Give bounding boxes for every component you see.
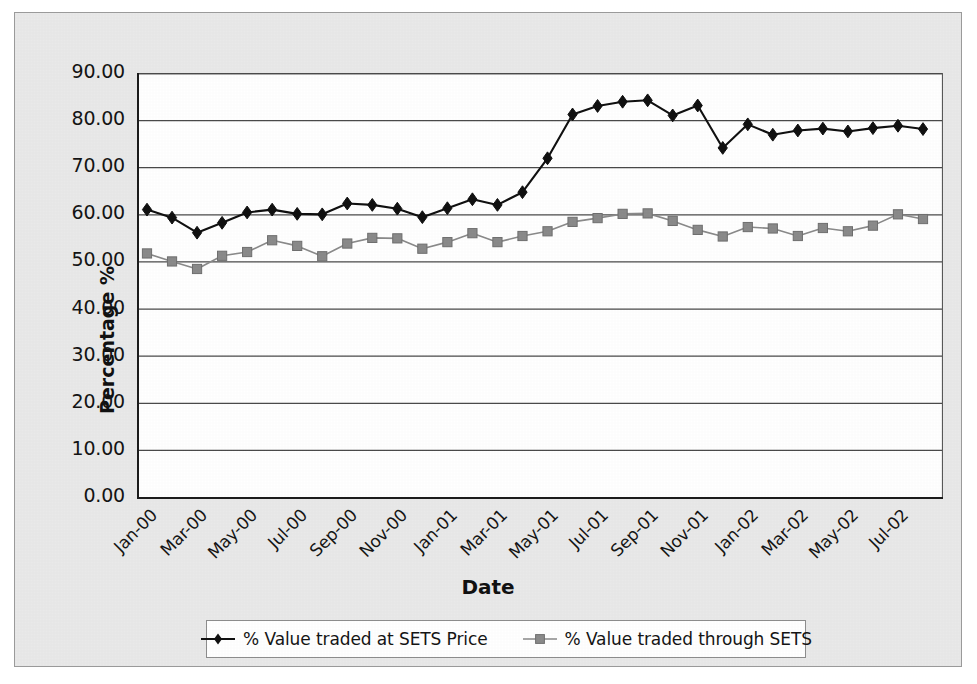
data-point-marker (293, 207, 302, 220)
y-axis-tick-label: 70.00 (17, 154, 125, 176)
data-point-marker (643, 209, 652, 218)
data-point-marker (593, 214, 602, 223)
data-point-marker (192, 226, 201, 239)
chart-legend: % Value traded at SETS Price% Value trad… (206, 620, 806, 658)
data-point-marker (443, 202, 452, 215)
data-point-marker (243, 206, 252, 219)
data-point-marker (343, 239, 352, 248)
data-point-marker (543, 227, 552, 236)
data-point-marker (818, 223, 827, 232)
data-point-marker (368, 233, 377, 242)
plot-area (137, 73, 943, 499)
data-point-marker (343, 197, 352, 210)
y-axis-tick-label: 80.00 (17, 107, 125, 129)
square-marker-icon (522, 631, 558, 647)
data-point-marker (293, 241, 302, 250)
data-point-marker (243, 247, 252, 256)
data-point-marker (618, 209, 627, 218)
y-axis-tick-label: 50.00 (17, 248, 125, 270)
data-point-marker (868, 221, 877, 230)
data-point-marker (843, 125, 852, 138)
data-point-marker (818, 122, 827, 135)
data-point-marker (668, 109, 677, 122)
data-point-marker (443, 238, 452, 247)
data-point-marker (368, 199, 377, 212)
chart-figure: Percentage % Date 0.0010.0020.0030.0040.… (0, 0, 977, 684)
data-point-marker (768, 224, 777, 233)
data-point-marker (192, 264, 201, 273)
data-point-marker (593, 100, 602, 113)
data-point-marker (768, 128, 777, 141)
data-point-marker (218, 251, 227, 260)
data-point-marker (643, 94, 652, 107)
data-point-marker (268, 203, 277, 216)
data-point-marker (167, 257, 176, 266)
legend-entry[interactable]: % Value traded through SETS (522, 629, 812, 649)
data-point-marker (568, 217, 577, 226)
data-point-marker (518, 231, 527, 240)
data-point-marker (918, 123, 927, 136)
y-axis-tick-label: 10.00 (17, 437, 125, 459)
plot-svg (139, 73, 943, 497)
data-point-marker (743, 222, 752, 231)
data-point-marker (493, 199, 502, 212)
diamond-marker-icon (200, 631, 236, 647)
data-point-marker (743, 118, 752, 131)
data-point-marker (318, 208, 327, 221)
data-point-marker (868, 122, 877, 135)
y-axis-tick-label: 90.00 (17, 60, 125, 82)
data-point-marker (393, 234, 402, 243)
data-point-marker (142, 249, 151, 258)
data-point-marker (468, 229, 477, 238)
y-axis-tick-label: 40.00 (17, 296, 125, 318)
data-point-marker (318, 252, 327, 261)
data-point-marker (167, 211, 176, 224)
data-point-marker (693, 225, 702, 234)
data-point-marker (418, 211, 427, 224)
data-point-marker (493, 238, 502, 247)
y-axis-tick-label: 20.00 (17, 390, 125, 412)
y-axis-tick-label: 60.00 (17, 201, 125, 223)
data-point-marker (793, 124, 802, 137)
data-point-marker (668, 216, 677, 225)
data-point-marker (893, 210, 902, 219)
y-axis-tick-label: 0.00 (17, 484, 125, 506)
data-point-marker (918, 214, 927, 223)
data-point-marker (843, 227, 852, 236)
legend-label: % Value traded at SETS Price (243, 629, 487, 649)
data-point-marker (793, 231, 802, 240)
data-point-marker (468, 193, 477, 206)
series-line-2 (147, 213, 923, 269)
y-axis-tick-label: 30.00 (17, 343, 125, 365)
legend-entry[interactable]: % Value traded at SETS Price (200, 629, 487, 649)
data-point-marker (268, 236, 277, 245)
data-point-marker (393, 202, 402, 215)
chart-panel: Percentage % Date 0.0010.0020.0030.0040.… (14, 12, 962, 667)
data-point-marker (217, 216, 226, 229)
data-point-marker (142, 203, 151, 216)
data-point-marker (618, 95, 627, 108)
data-point-marker (418, 244, 427, 253)
legend-label: % Value traded through SETS (565, 629, 812, 649)
data-point-marker (718, 232, 727, 241)
data-point-marker (893, 119, 902, 132)
